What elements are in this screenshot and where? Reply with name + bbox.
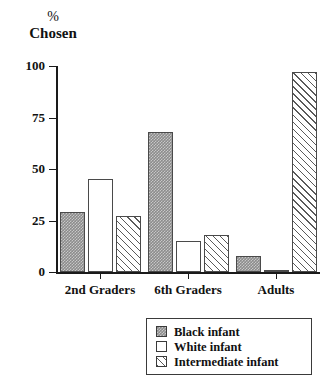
legend-swatch-icon [156,356,167,367]
bar-intermediate-infant-2nd-graders [116,216,141,272]
bar-black-infant-6th-graders [148,132,173,272]
plot-area: 0255075100 [56,66,320,272]
y-axis-tick-label: 50 [32,160,45,177]
bar-white-infant-2nd-graders [88,179,113,272]
y-axis-tick-label: 0 [39,263,46,280]
x-axis-tick [188,272,189,279]
bar-white-infant-6th-graders [176,241,201,272]
x-axis-tick [100,272,101,279]
legend-item: Intermediate infant [156,354,304,369]
bar-intermediate-infant-6th-graders [204,235,229,272]
legend-label: Black infant [174,325,240,339]
bar-white-infant-adults [264,270,289,272]
y-axis-tick-label: 75 [32,109,45,126]
x-axis-tick [276,272,277,279]
legend-label: White infant [174,340,242,354]
y-axis-tick-label: 100 [26,57,46,74]
legend-item: White infant [156,339,304,354]
y-axis-tick: 50 [49,169,56,170]
bar-black-infant-2nd-graders [60,212,85,272]
y-axis-title: % Chosen [8,8,98,42]
bar-chart: % Chosen 0255075100 2nd Graders6th Grade… [0,0,326,390]
bar-intermediate-infant-adults [292,72,317,272]
x-axis-group-label: 2nd Graders [56,282,144,298]
y-axis-title-chosen: Chosen [8,25,98,42]
y-axis-line [56,66,58,272]
legend-swatch-icon [156,341,167,352]
y-axis-title-percent: % [8,8,98,25]
bar-black-infant-adults [236,256,261,272]
legend-label: Intermediate infant [174,355,279,369]
y-axis-tick-label: 25 [32,212,45,229]
x-axis-group-label: 6th Graders [144,282,232,298]
y-axis-tick: 75 [49,118,56,119]
y-axis-tick: 25 [49,221,56,222]
chart-legend: Black infantWhite infantIntermediate inf… [146,318,312,375]
y-axis-tick: 100 [49,66,56,67]
legend-swatch-icon [156,326,167,337]
y-axis-tick: 0 [49,272,56,273]
x-axis-group-label: Adults [232,282,320,298]
legend-item: Black infant [156,324,304,339]
